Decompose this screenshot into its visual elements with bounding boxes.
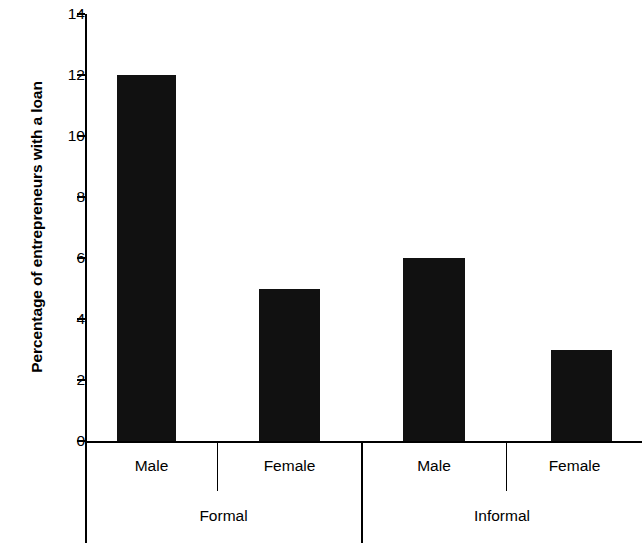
- bar-chart-figure: Percentage of entrepreneurs with a loan …: [0, 0, 642, 543]
- y-tick-label: 14: [45, 6, 85, 22]
- x-group-label-formal: Formal: [86, 507, 361, 525]
- bar-formal-female: [259, 289, 320, 442]
- x-category-label-informal-female: Female: [507, 457, 642, 475]
- bar-formal-male: [117, 75, 176, 441]
- bar-informal-male: [403, 258, 465, 441]
- bar-informal-female: [551, 350, 612, 442]
- y-tick-label: 0: [45, 433, 85, 449]
- x-axis-baseline: [85, 441, 642, 443]
- x-category-label-formal-male: Male: [86, 457, 217, 475]
- x-category-label-formal-female: Female: [218, 457, 361, 475]
- plot-area: 14 12 10 8 6 4 2 0: [0, 0, 642, 543]
- x-group-label-informal: Informal: [362, 507, 642, 525]
- y-tick-label: 2: [45, 372, 85, 388]
- y-tick-label: 12: [45, 67, 85, 83]
- y-tick-label: 8: [45, 189, 85, 205]
- x-category-label-informal-male: Male: [362, 457, 506, 475]
- y-tick-label: 6: [45, 250, 85, 266]
- y-tick-label: 4: [45, 311, 85, 327]
- y-tick-label: 10: [45, 128, 85, 144]
